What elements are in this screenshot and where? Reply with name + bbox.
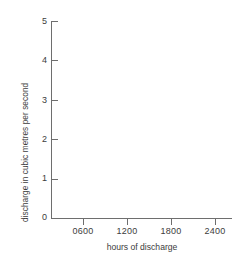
y-tick-label-1: 1 <box>34 174 47 183</box>
x-tick-mark-1800 <box>171 219 172 225</box>
chart-container: discharge in cubic metres per second 5 4… <box>0 0 244 273</box>
x-tick-label-1800: 1800 <box>149 227 193 236</box>
y-tick-label-5: 5 <box>34 17 47 26</box>
x-tick-mark-0600 <box>83 219 84 225</box>
y-tick-label-2: 2 <box>34 135 47 144</box>
y-tick-mark-0 <box>52 218 58 219</box>
x-axis-title: hours of discharge <box>51 242 233 252</box>
y-tick-mark-3 <box>52 100 58 101</box>
x-tick-mark-1200 <box>127 219 128 225</box>
y-tick-mark-1 <box>52 179 58 180</box>
x-tick-label-2400: 2400 <box>193 227 237 236</box>
y-tick-mark-5 <box>52 21 58 22</box>
x-axis-line <box>51 218 232 219</box>
x-tick-label-1200: 1200 <box>105 227 149 236</box>
x-tick-mark-2400 <box>215 219 216 225</box>
y-tick-label-3: 3 <box>34 96 47 105</box>
x-tick-label-0600: 0600 <box>61 227 105 236</box>
y-tick-label-0: 0 <box>34 213 47 222</box>
y-axis-title: discharge in cubic metres per second <box>18 22 32 222</box>
y-tick-mark-4 <box>52 60 58 61</box>
y-tick-mark-2 <box>52 139 58 140</box>
plot-area <box>52 21 232 218</box>
y-tick-label-4: 4 <box>34 56 47 65</box>
